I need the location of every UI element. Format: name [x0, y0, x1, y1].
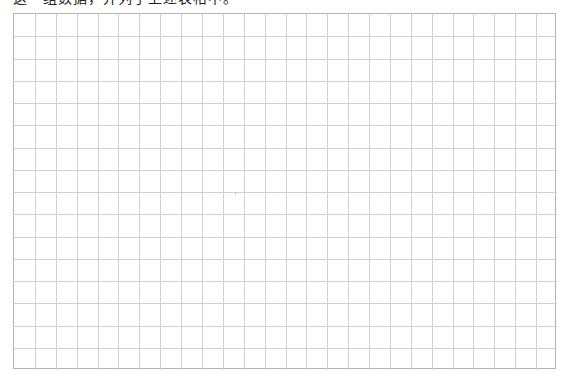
- grid-lines: [14, 14, 557, 370]
- worksheet-caption: 这一组数据，并列于上述表格中。: [13, 0, 233, 5]
- blank-grid-paper: [13, 13, 556, 369]
- stray-mark: [235, 192, 236, 195]
